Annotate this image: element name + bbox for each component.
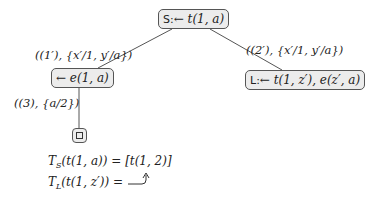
tl-symbol: T	[48, 175, 56, 189]
ts-argument: (t(1, a)) =	[62, 154, 122, 168]
edge-label-root-right: ((2′), {x′/1, y′/a})	[246, 43, 343, 57]
equation-ts: TS(t(1, a)) = [t(1, 2)]	[48, 154, 172, 170]
root-tag: S:	[163, 13, 174, 26]
right-child-goal: ← t(1, z′), e(z′, a)	[260, 73, 360, 87]
tl-argument: (t(1, z′)) =	[61, 175, 123, 189]
empty-clause-node	[72, 128, 87, 143]
equation-tl: TL(t(1, z′)) =	[48, 175, 123, 191]
ts-symbol: T	[48, 154, 56, 168]
right-child-node: L:← t(1, z′), e(z′, a)	[245, 70, 365, 90]
edge-label-root-left: ((1′), {x′/1, y′/a})	[35, 48, 132, 62]
edge-label-left-leaf: ((3), {a/2})	[14, 96, 79, 110]
right-child-tag: L:	[250, 74, 260, 87]
left-child-goal: ← e(1, a)	[56, 71, 109, 85]
root-goal: ← t(1, a)	[174, 12, 224, 26]
hook-arrow-icon	[128, 175, 146, 184]
ts-result: [t(1, 2)]	[125, 154, 171, 168]
empty-clause-icon	[76, 132, 83, 139]
root-node: S:← t(1, a)	[158, 9, 229, 29]
left-child-node: ← e(1, a)	[51, 68, 114, 88]
